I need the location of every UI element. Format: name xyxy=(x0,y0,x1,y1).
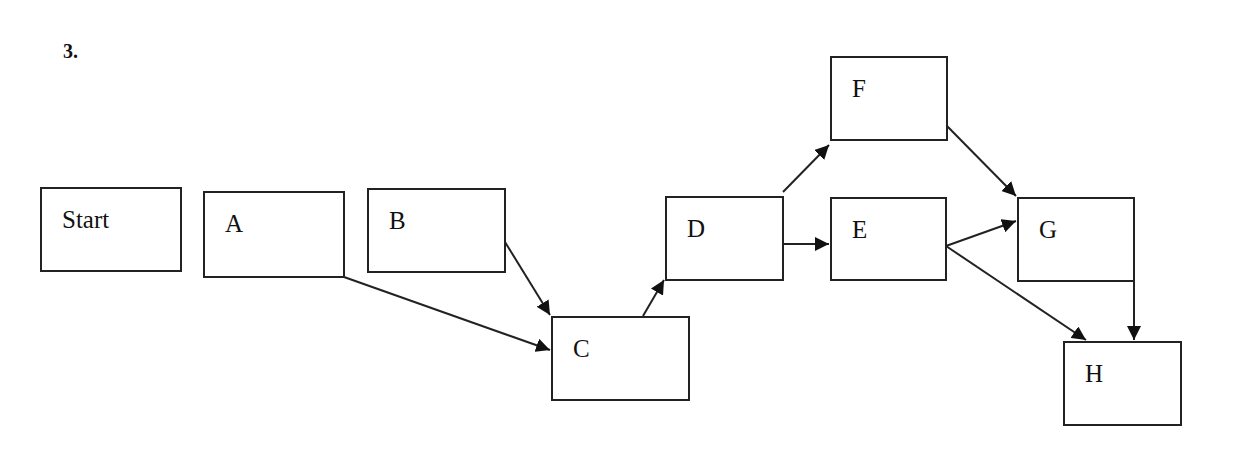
node-a: A xyxy=(203,191,345,278)
edge-c-d xyxy=(643,280,664,316)
node-label: C xyxy=(573,334,590,364)
node-label: G xyxy=(1039,215,1057,245)
node-label: E xyxy=(852,215,867,245)
node-h: H xyxy=(1063,341,1182,426)
node-label: A xyxy=(225,209,243,239)
node-b: B xyxy=(367,188,506,273)
node-start: Start xyxy=(40,187,182,272)
node-f: F xyxy=(830,56,948,141)
edge-f-g xyxy=(947,126,1016,196)
edge-b-c xyxy=(505,242,550,315)
node-label: F xyxy=(852,74,866,104)
edge-d-f xyxy=(783,145,829,192)
node-label: Start xyxy=(62,205,109,235)
node-g: G xyxy=(1017,197,1135,282)
node-label: D xyxy=(687,214,705,244)
node-c: C xyxy=(551,316,690,401)
node-d: D xyxy=(665,196,784,281)
node-label: B xyxy=(389,206,406,236)
node-label: H xyxy=(1085,359,1103,389)
edge-e-g xyxy=(946,221,1016,246)
edge-a-c xyxy=(344,277,550,350)
node-e: E xyxy=(830,197,947,281)
